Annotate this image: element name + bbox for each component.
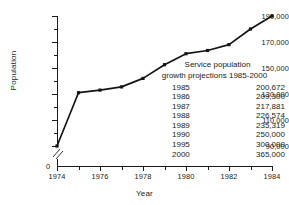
data-point-marker	[77, 91, 80, 94]
projection-population: 200,672	[236, 83, 289, 93]
projection-population: 209,300	[236, 92, 289, 102]
projection-population: 226,574	[236, 111, 289, 121]
projection-year: 1987	[146, 102, 236, 112]
population-line-chart: Population Year 0 190,000170,000150,0001…	[0, 0, 289, 205]
projection-table: 1985200,6721986209,3001987217,8811988226…	[146, 83, 289, 160]
table-row: 1988226,574	[146, 111, 289, 121]
data-point-marker	[206, 49, 209, 52]
projection-population: 217,881	[236, 102, 289, 112]
projection-year: 1985	[146, 83, 236, 93]
projection-year: 1989	[146, 121, 236, 131]
table-row: 1986209,300	[146, 92, 289, 102]
table-row: 1989235,319	[146, 121, 289, 131]
data-point-marker	[184, 52, 187, 55]
data-point-marker	[227, 43, 230, 46]
data-point-marker	[120, 85, 123, 88]
projection-population: 250,000	[236, 130, 289, 140]
table-row: 1995300,000	[146, 140, 289, 150]
table-row: 1987217,881	[146, 102, 289, 112]
annotation-title-line2: growth projections 1985-2000	[140, 71, 289, 82]
projection-year: 2000	[146, 150, 236, 160]
projection-annotation: Service population growth projections 19…	[146, 60, 289, 159]
data-point-marker	[98, 89, 101, 92]
projection-year: 1988	[146, 111, 236, 121]
projection-year: 1995	[146, 140, 236, 150]
data-point-marker	[249, 27, 252, 30]
data-point-marker	[55, 144, 58, 147]
table-row: 1990250,000	[146, 130, 289, 140]
table-row: 2000365,000	[146, 150, 289, 160]
projection-year: 1986	[146, 92, 236, 102]
projection-population: 235,319	[236, 121, 289, 131]
projection-population: 365,000	[236, 150, 289, 160]
data-point-marker	[270, 14, 273, 17]
projection-population: 300,000	[236, 140, 289, 150]
projection-year: 1990	[146, 130, 236, 140]
annotation-title-line1: Service population	[146, 60, 289, 71]
table-row: 1985200,672	[146, 83, 289, 93]
